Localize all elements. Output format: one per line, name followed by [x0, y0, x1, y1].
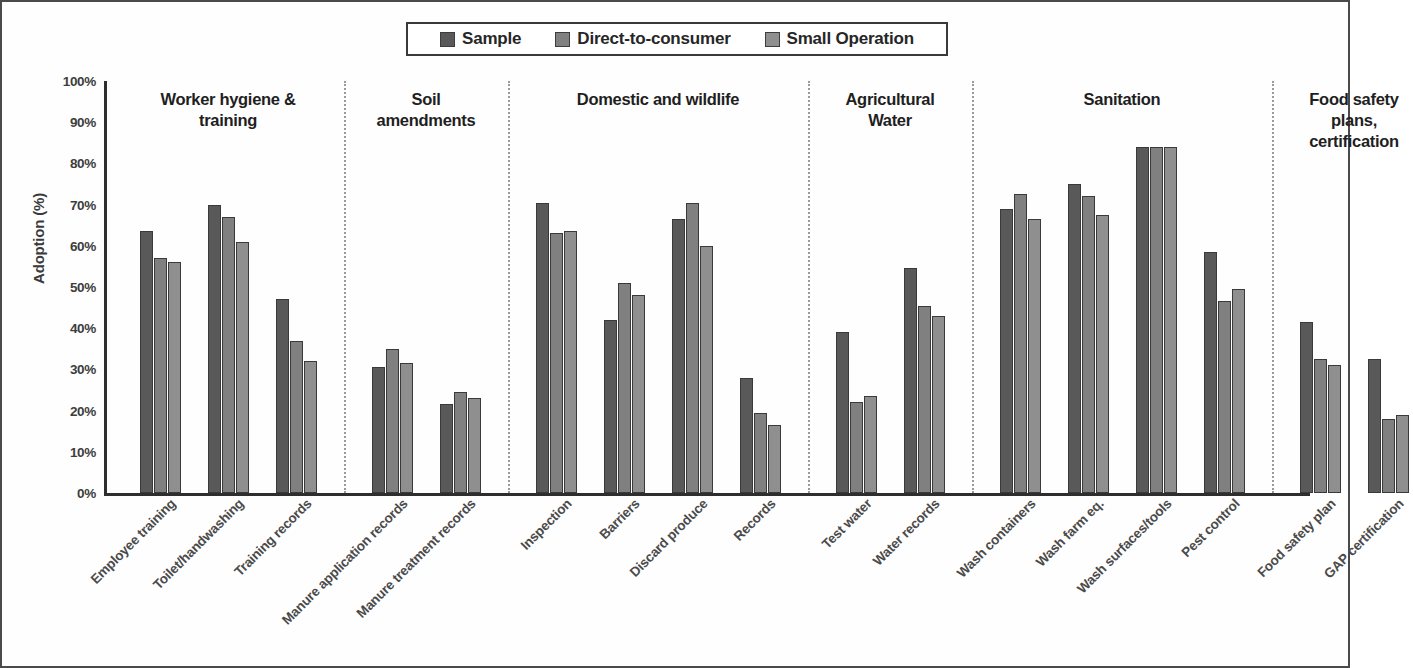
legend-swatch-icon-small-operation: [765, 32, 780, 47]
bar-group-inspection: [522, 81, 590, 493]
x-axis-tick-labels: Employee trainingToilet/handwashingTrain…: [104, 496, 1310, 666]
bar: [1164, 147, 1177, 493]
bar: [1382, 419, 1395, 493]
x-axis-label-test-water: Test water: [819, 496, 875, 552]
bar-group-water-records: [890, 81, 958, 493]
bar: [386, 349, 399, 493]
bar-group-barriers: [590, 81, 658, 493]
bar: [1232, 289, 1245, 493]
y-axis-tick-20: 20%: [38, 403, 96, 418]
bar: [236, 242, 249, 493]
bar: [618, 283, 631, 493]
legend-label-sample: Sample: [462, 29, 521, 49]
bar-group-training-records: [262, 81, 330, 493]
bar: [1150, 147, 1163, 493]
bar: [208, 205, 221, 493]
bar: [468, 398, 481, 493]
bar-group-records: [726, 81, 794, 493]
bar: [1028, 219, 1041, 493]
x-axis-label-manure-treatment-records: Manure treatment records: [354, 496, 479, 621]
bar: [372, 367, 385, 493]
bar: [632, 295, 645, 493]
bar: [1396, 415, 1409, 493]
y-axis-tick-10: 10%: [38, 444, 96, 459]
bar: [1068, 184, 1081, 493]
bar: [1300, 322, 1313, 493]
y-axis-tick-90: 90%: [38, 115, 96, 130]
legend-swatch-icon-sample: [440, 32, 455, 47]
bar-group-test-water: [822, 81, 890, 493]
y-axis-tick-0: 0%: [38, 486, 96, 501]
bar: [1136, 147, 1149, 493]
y-axis-tick-50: 50%: [38, 280, 96, 295]
bar-group-pest-control: [1190, 81, 1258, 493]
bar: [740, 378, 753, 493]
chart-legend: Sample Direct-to-consumer Small Operatio…: [406, 22, 948, 56]
bar: [222, 217, 235, 493]
x-axis-label-wash-containers: Wash containers: [954, 496, 1039, 581]
legend-item-direct-to-consumer: Direct-to-consumer: [555, 29, 730, 49]
x-axis-label-records: Records: [731, 496, 779, 544]
bar: [932, 316, 945, 493]
x-axis-label-barriers: Barriers: [597, 496, 643, 542]
bar-group-wash-containers: [986, 81, 1054, 493]
y-axis-tick-100: 100%: [38, 74, 96, 89]
legend-label-direct-to-consumer: Direct-to-consumer: [577, 29, 730, 49]
bar: [1000, 209, 1013, 493]
bar: [1014, 194, 1027, 493]
bar: [154, 258, 167, 493]
bar: [1082, 196, 1095, 493]
bar: [1328, 365, 1341, 493]
bar: [290, 341, 303, 493]
bar: [140, 231, 153, 493]
y-axis-tick-30: 30%: [38, 362, 96, 377]
bar: [1314, 359, 1327, 493]
bar: [1204, 252, 1217, 493]
bar: [604, 320, 617, 493]
y-axis-line: [104, 81, 107, 493]
y-axis-tick-70: 70%: [38, 197, 96, 212]
bar-group-manure-treatment-records: [426, 81, 494, 493]
bar: [454, 392, 467, 493]
bar: [1096, 215, 1109, 493]
legend-swatch-icon-direct-to-consumer: [555, 32, 570, 47]
y-axis-tick-60: 60%: [38, 238, 96, 253]
x-axis-label-pest-control: Pest control: [1179, 496, 1243, 560]
legend-item-small-operation: Small Operation: [765, 29, 914, 49]
bar: [564, 231, 577, 493]
bar: [536, 203, 549, 493]
bar: [768, 425, 781, 493]
x-axis-label-water-records: Water records: [870, 496, 943, 569]
bar: [850, 402, 863, 493]
group-divider: [808, 81, 810, 493]
bar: [918, 306, 931, 493]
bar-group-manure-application-records: [358, 81, 426, 493]
bar-group-wash-surfaces-tools: [1122, 81, 1190, 493]
bar: [304, 361, 317, 493]
legend-item-sample: Sample: [440, 29, 521, 49]
y-axis-tick-80: 80%: [38, 156, 96, 171]
bar: [904, 268, 917, 493]
bar-group-discard-produce: [658, 81, 726, 493]
x-axis-label-inspection: Inspection: [518, 496, 575, 553]
y-axis-tick-40: 40%: [38, 321, 96, 336]
group-divider: [972, 81, 974, 493]
bar: [754, 413, 767, 493]
x-axis-label-wash-farm-eq-: Wash farm eq.: [1033, 496, 1107, 570]
bar-group-food-safety-plan: [1286, 81, 1354, 493]
bar: [836, 332, 849, 493]
bar: [672, 219, 685, 493]
legend-label-small-operation: Small Operation: [787, 29, 914, 49]
bar: [1218, 301, 1231, 493]
bar: [400, 363, 413, 493]
group-divider: [508, 81, 510, 493]
plot-area: Worker hygiene &trainingSoilamendmentsDo…: [104, 81, 1310, 493]
bar: [864, 396, 877, 493]
bar: [440, 404, 453, 493]
group-divider: [1272, 81, 1274, 493]
bar: [1368, 359, 1381, 493]
bar: [700, 246, 713, 493]
bar-group-wash-farm-eq-: [1054, 81, 1122, 493]
bar: [686, 203, 699, 493]
